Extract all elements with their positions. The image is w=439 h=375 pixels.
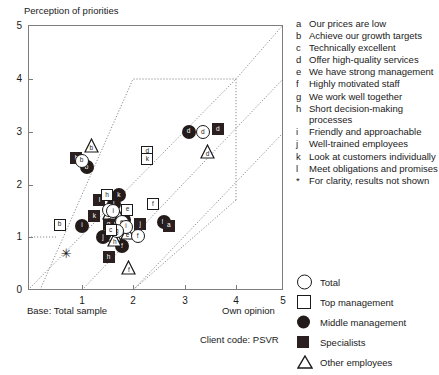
key-letter: c [296, 42, 309, 54]
data-point-label: i [81, 222, 82, 229]
key-letter: j [296, 138, 309, 150]
data-point-label: d [201, 129, 205, 136]
data-point-circle-open-b: b [75, 154, 89, 168]
key-letter: * [296, 175, 309, 187]
key-row: jWell-trained employees [296, 138, 439, 150]
key-row: lMeet obligations and promises [296, 163, 439, 175]
key-row: bAchieve our growth targets [296, 30, 439, 42]
data-point-square-filled-h: h [103, 251, 115, 263]
data-point-square-filled-d: d [212, 123, 224, 135]
key-row: cTechnically excellent [296, 42, 439, 54]
xtick-label-5: 5 [276, 295, 290, 306]
data-point-square-open-b: b [54, 219, 66, 231]
key-text: We work well together [309, 91, 402, 103]
data-point-label: b [89, 145, 93, 152]
ytick-mark-3 [28, 132, 33, 133]
ytick-label-2: 2 [8, 179, 22, 190]
attribute-key-list: aOur prices are lowbAchieve our growth t… [296, 18, 439, 187]
base-label: Base: Total sample [27, 305, 107, 316]
ytick-label-3: 3 [8, 126, 22, 137]
data-point-label: e [126, 206, 130, 213]
key-text: For clarity, results not shown [309, 175, 429, 187]
data-point-label: f [128, 267, 130, 274]
key-text: We have strong management [309, 66, 433, 78]
data-point-label: h [107, 254, 111, 261]
ytick-mark-2 [28, 185, 33, 186]
key-row: *For clarity, results not shown [296, 175, 439, 187]
data-point-square-filled-a: a [163, 220, 175, 232]
data-point-triangle-open-d: d [200, 144, 215, 159]
square-open-icon [296, 292, 320, 312]
data-point-label: h [113, 239, 117, 246]
data-point-label: b [80, 157, 84, 164]
scatter-chart: Perception of priorities 5 4 3 2 1 0 1 2 [0, 0, 290, 375]
ytick-label-1: 1 [8, 231, 22, 242]
chart-title: Perception of priorities [24, 5, 119, 16]
square-filled-icon [296, 332, 320, 352]
ytick-mark-1 [28, 237, 33, 238]
data-point-label: h [105, 192, 109, 199]
data-point-star-*: ✳ [59, 246, 73, 260]
triangle-open-icon [296, 352, 320, 372]
key-row: gWe work well together [296, 91, 439, 103]
key-letter: d [296, 54, 309, 66]
ytick-mark-4 [28, 79, 33, 80]
data-point-label: d [187, 128, 191, 135]
data-point-circle-open-d: d [196, 125, 210, 139]
xtick-mark-2 [133, 285, 134, 290]
key-text: Look at customers individually [309, 151, 436, 163]
key-text: Short decision-making processes [309, 103, 439, 126]
symbol-legend-label: Other employees [320, 357, 392, 368]
key-letter: a [296, 18, 309, 30]
key-letter: e [296, 66, 309, 78]
key-text: Well-trained employees [309, 138, 408, 150]
symbol-legend-label: Top management [320, 297, 393, 308]
xtick-mark-1 [82, 285, 83, 290]
key-text: Technically excellent [309, 42, 396, 54]
key-text: Highly motivated staff [309, 78, 400, 90]
key-row: fHighly motivated staff [296, 78, 439, 90]
ytick-label-5: 5 [8, 20, 22, 31]
symbol-legend-label: Specialists [320, 337, 365, 348]
key-row: dOffer high-quality services [296, 54, 439, 66]
xtick-mark-4 [236, 285, 237, 290]
data-point-triangle-open-f: f [121, 260, 136, 275]
data-point-square-filled-k: k [88, 210, 100, 222]
key-letter: g [296, 91, 309, 103]
key-letter: b [296, 30, 309, 42]
key-text: Friendly and approachable [309, 126, 422, 138]
xtick-mark-3 [185, 285, 186, 290]
circle-filled-icon [296, 312, 320, 332]
symbol-legend-label: Total [320, 277, 340, 288]
data-point-label: d [216, 126, 220, 133]
data-point-label: d [206, 151, 210, 158]
data-point-circle-filled-d: d [182, 125, 196, 139]
data-point-circle-filled-i: i [75, 219, 89, 233]
symbol-legend: TotalTop managementMiddle managementSpec… [296, 272, 439, 372]
key-row: kLook at customers individually [296, 151, 439, 163]
data-point-label: a [167, 222, 171, 229]
key-row: iFriendly and approachable [296, 126, 439, 138]
key-text: Our prices are low [309, 18, 386, 30]
data-point-label: k [146, 156, 149, 163]
data-point-label: f [137, 233, 139, 240]
data-point-label: f [152, 201, 154, 208]
data-point-label: c [109, 227, 112, 234]
symbol-legend-row: Top management [296, 292, 439, 312]
key-letter: k [296, 151, 309, 163]
symbol-legend-label: Middle management [320, 317, 406, 328]
client-code-label: Client code: PSVR [200, 334, 279, 345]
symbol-legend-row: Specialists [296, 332, 439, 352]
data-point-circle-open-f: f [131, 229, 145, 243]
key-row: aOur prices are low [296, 18, 439, 30]
ytick-label-0: 0 [8, 284, 22, 295]
symbol-legend-row: Middle management [296, 312, 439, 332]
data-point-label: b [58, 221, 62, 228]
xtick-label-3: 3 [178, 295, 192, 306]
data-point-square-open-f: f [147, 198, 159, 210]
key-letter: f [296, 78, 309, 90]
xaxis-title: Own opinion [222, 305, 275, 316]
key-letter: h [296, 103, 309, 115]
data-point-square-open-k: k [141, 153, 153, 165]
data-point-label: j [139, 221, 140, 228]
